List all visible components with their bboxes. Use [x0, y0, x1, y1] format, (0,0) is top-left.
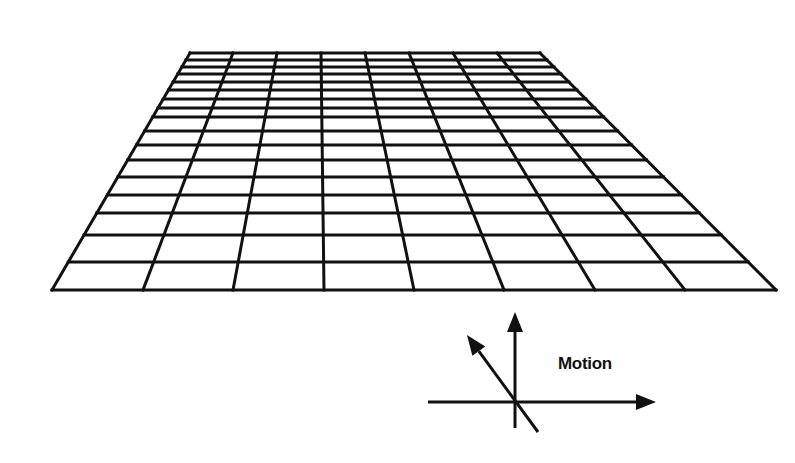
perspective-grid-plane: [52, 53, 776, 290]
motion-axes: [428, 312, 656, 432]
motion-label: Motion: [558, 354, 612, 374]
diagonal-motion-arrow-shaft: [479, 351, 538, 432]
perspective-grid-diagram: [0, 0, 795, 463]
horizontal-axis-arrow-arrowhead-icon: [636, 394, 656, 410]
diagonal-motion-arrow-arrowhead-icon: [467, 335, 485, 356]
vertical-axis-arrow-arrowhead-icon: [507, 312, 523, 332]
grid-vertical-line: [52, 53, 190, 290]
